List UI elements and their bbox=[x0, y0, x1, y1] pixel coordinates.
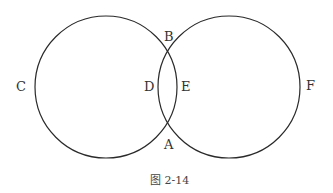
label-b: B bbox=[164, 29, 174, 44]
label-d: D bbox=[144, 79, 154, 94]
label-f: F bbox=[306, 78, 315, 93]
label-c: C bbox=[16, 79, 26, 94]
right-circle bbox=[158, 16, 300, 158]
left-circle bbox=[35, 16, 177, 158]
label-e: E bbox=[181, 79, 191, 94]
figure-caption: 图 2-14 bbox=[150, 174, 189, 187]
label-a: A bbox=[163, 137, 174, 152]
venn-diagram: B A C D E F 图 2-14 bbox=[0, 0, 333, 193]
